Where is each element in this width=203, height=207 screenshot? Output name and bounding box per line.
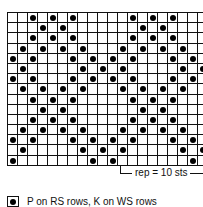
purl-stitch-cell bbox=[198, 64, 203, 74]
knit-stitch-cell bbox=[68, 145, 78, 155]
knit-stitch-cell bbox=[28, 44, 38, 54]
knit-stitch-cell bbox=[98, 156, 108, 166]
knit-stitch-cell bbox=[38, 115, 48, 125]
knit-stitch-cell bbox=[28, 145, 38, 155]
purl-stitch-cell bbox=[148, 13, 158, 23]
purl-stitch-cell bbox=[98, 145, 108, 155]
purl-stitch-cell bbox=[158, 125, 168, 135]
knit-stitch-cell bbox=[138, 74, 148, 84]
knit-stitch-cell bbox=[58, 145, 68, 155]
knit-stitch-cell bbox=[118, 13, 128, 23]
knit-stitch-cell bbox=[138, 64, 148, 74]
purl-stitch-cell bbox=[18, 125, 28, 135]
knit-stitch-cell bbox=[178, 13, 188, 23]
knit-stitch-cell bbox=[188, 115, 198, 125]
knit-stitch-cell bbox=[128, 125, 138, 135]
purl-stitch-cell bbox=[168, 74, 178, 84]
knit-stitch-cell bbox=[28, 156, 38, 166]
purl-stitch-cell bbox=[158, 105, 168, 115]
knit-stitch-cell bbox=[38, 95, 48, 105]
knit-stitch-cell bbox=[68, 44, 78, 54]
purl-stitch-cell bbox=[48, 13, 58, 23]
knit-stitch-cell bbox=[138, 135, 148, 145]
knit-stitch-cell bbox=[98, 13, 108, 23]
knit-stitch-cell bbox=[198, 105, 203, 115]
purl-stitch-cell bbox=[178, 84, 188, 94]
purl-stitch-cell bbox=[28, 74, 38, 84]
knit-stitch-cell bbox=[58, 54, 68, 64]
purl-stitch-cell bbox=[148, 33, 158, 43]
knit-stitch-cell bbox=[38, 156, 48, 166]
knit-stitch-cell bbox=[138, 145, 148, 155]
repeat-label: rep = 10 sts bbox=[135, 167, 188, 178]
knit-stitch-cell bbox=[58, 95, 68, 105]
knit-stitch-cell bbox=[8, 105, 18, 115]
knit-stitch-cell bbox=[28, 105, 38, 115]
knit-stitch-cell bbox=[8, 64, 18, 74]
knit-stitch-cell bbox=[8, 84, 18, 94]
knit-stitch-cell bbox=[108, 44, 118, 54]
purl-stitch-cell bbox=[178, 64, 188, 74]
knit-stitch-cell bbox=[158, 74, 168, 84]
knit-stitch-cell bbox=[178, 115, 188, 125]
knit-stitch-cell bbox=[58, 115, 68, 125]
knit-stitch-cell bbox=[188, 84, 198, 94]
purl-stitch-cell bbox=[38, 105, 48, 115]
purl-stitch-cell bbox=[48, 95, 58, 105]
knit-stitch-cell bbox=[38, 145, 48, 155]
knit-stitch-cell bbox=[118, 23, 128, 33]
knit-stitch-cell bbox=[178, 54, 188, 64]
knit-stitch-cell bbox=[78, 135, 88, 145]
knit-stitch-cell bbox=[38, 33, 48, 43]
knit-stitch-cell bbox=[118, 115, 128, 125]
knit-stitch-cell bbox=[58, 33, 68, 43]
knit-stitch-cell bbox=[178, 105, 188, 115]
knit-stitch-cell bbox=[128, 44, 138, 54]
knit-stitch-cell bbox=[48, 44, 58, 54]
purl-stitch-cell bbox=[188, 135, 198, 145]
purl-stitch-cell bbox=[68, 13, 78, 23]
knit-stitch-cell bbox=[18, 135, 28, 145]
purl-stitch-cell bbox=[198, 145, 203, 155]
knit-stitch-cell bbox=[148, 54, 158, 64]
purl-stitch-cell bbox=[128, 33, 138, 43]
knit-stitch-cell bbox=[198, 135, 203, 145]
knit-stitch-cell bbox=[138, 95, 148, 105]
knit-stitch-cell bbox=[138, 13, 148, 23]
knit-stitch-cell bbox=[198, 74, 203, 84]
knit-stitch-cell bbox=[98, 105, 108, 115]
knit-stitch-cell bbox=[38, 135, 48, 145]
knit-stitch-cell bbox=[168, 64, 178, 74]
purl-stitch-cell bbox=[88, 135, 98, 145]
purl-stitch-cell bbox=[18, 84, 28, 94]
repeat-bracket-tick bbox=[120, 165, 121, 173]
knit-stitch-cell bbox=[148, 145, 158, 155]
knit-stitch-cell bbox=[88, 13, 98, 23]
purl-stitch-cell bbox=[118, 145, 128, 155]
knit-stitch-cell bbox=[88, 115, 98, 125]
purl-stitch-cell bbox=[88, 74, 98, 84]
knit-stitch-cell bbox=[18, 105, 28, 115]
purl-stitch-cell bbox=[88, 54, 98, 64]
knit-stitch-cell bbox=[8, 145, 18, 155]
purl-stitch-cell bbox=[28, 95, 38, 105]
purl-stitch-cell bbox=[128, 95, 138, 105]
purl-stitch-cell bbox=[108, 135, 118, 145]
knit-stitch-cell bbox=[98, 95, 108, 105]
purl-stitch-cell bbox=[28, 54, 38, 64]
knit-stitch-cell bbox=[48, 54, 58, 64]
purl-stitch-cell bbox=[138, 105, 148, 115]
purl-stitch-cell bbox=[118, 64, 128, 74]
knit-stitch-cell bbox=[18, 23, 28, 33]
knit-stitch-cell bbox=[78, 74, 88, 84]
knit-stitch-cell bbox=[168, 23, 178, 33]
knit-stitch-cell bbox=[28, 125, 38, 135]
knit-stitch-cell bbox=[48, 84, 58, 94]
purl-stitch-cell bbox=[18, 64, 28, 74]
purl-stitch-cell bbox=[128, 135, 138, 145]
repeat-bracket-line-left bbox=[120, 173, 132, 174]
knit-stitch-cell bbox=[188, 33, 198, 43]
knit-stitch-cell bbox=[68, 84, 78, 94]
purl-stitch-cell bbox=[158, 23, 168, 33]
purl-stitch-cell bbox=[68, 54, 78, 64]
